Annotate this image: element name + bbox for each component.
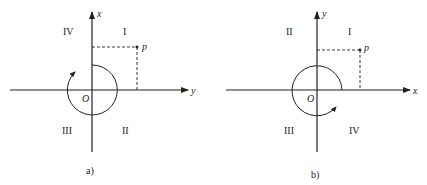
quadrant-bottom-left: III <box>284 125 294 136</box>
quadrant-top-left: IV <box>63 26 74 37</box>
diagram-b: y x O p II I III IV b) <box>226 8 418 181</box>
vertical-axis-label: y <box>321 8 327 19</box>
quadrant-top-left: II <box>286 26 293 37</box>
coordinate-diagrams: x y O p IV I III II a) y x O p II I III … <box>0 0 427 185</box>
quadrant-top-right: I <box>348 26 351 37</box>
vertical-axis-label: x <box>96 8 102 19</box>
origin-label: O <box>307 93 314 104</box>
quadrant-bottom-right: IV <box>349 125 360 136</box>
point-label: p <box>363 42 369 53</box>
quadrant-top-right: I <box>123 26 126 37</box>
quadrant-bottom-left: III <box>62 125 72 136</box>
point-label: p <box>141 41 147 52</box>
point-p <box>359 49 362 52</box>
horizontal-axis-label: x <box>412 85 418 96</box>
point-p <box>136 46 139 49</box>
caption-b: b) <box>311 169 319 181</box>
horizontal-axis-label: y <box>190 85 196 96</box>
quadrant-bottom-right: II <box>122 125 129 136</box>
caption-a: a) <box>86 165 94 177</box>
diagram-a: x y O p IV I III II a) <box>10 8 196 177</box>
origin-label: O <box>82 93 89 104</box>
